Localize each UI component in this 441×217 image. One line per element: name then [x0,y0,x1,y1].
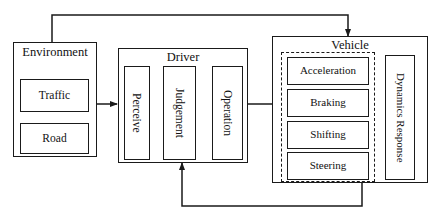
driver-title: Driver [118,50,248,66]
environment-item-road-label: Road [20,123,89,154]
vehicle-control-acceleration-label: Acceleration [287,57,369,85]
system-block-diagram: Environment Traffic Road Driver Perceive… [0,0,441,217]
driver-stage-judgement-label: Judgement [163,66,196,160]
environment-item-traffic-label: Traffic [20,79,89,112]
vehicle-control-steering-label: Steering [287,152,369,180]
vehicle-dynamics-response-label: Dynamics Response [385,55,415,180]
vehicle-control-braking-label: Braking [287,89,369,117]
environment-title: Environment [13,45,97,61]
driver-stage-perceive-label: Perceive [124,66,150,160]
driver-stage-operation-label: Operation [212,66,243,160]
vehicle-control-shifting-label: Shifting [287,121,369,149]
